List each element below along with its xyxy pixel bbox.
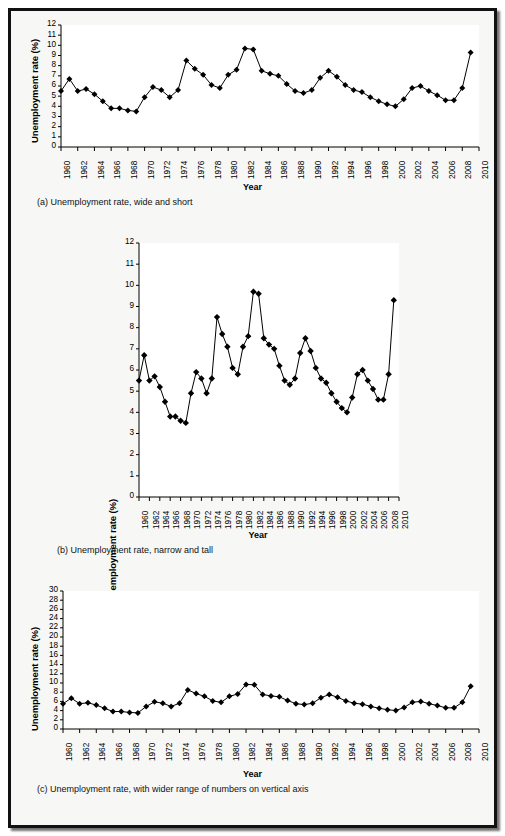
x-tick-label: 2010: [482, 161, 490, 179]
chart-panel-a: Unemployment rate (%) 121110987654321019…: [11, 11, 494, 211]
x-tick-label: 1960: [64, 161, 72, 179]
y-tick-label: 8: [35, 61, 56, 69]
x-tick-label: 2004: [432, 161, 440, 179]
x-tick-label: 1992: [332, 743, 340, 761]
panel-c-caption: (c) Unemployment rate, with wider range …: [37, 784, 309, 794]
x-tick-label: 1978: [236, 511, 244, 529]
y-tick-label: 26: [35, 605, 58, 613]
y-tick-label: 6: [113, 365, 134, 373]
x-tick-label: 1988: [298, 161, 306, 179]
x-tick-label: 1982: [248, 161, 256, 179]
y-tick-label: 18: [35, 642, 58, 650]
x-tick-label: 1980: [233, 743, 241, 761]
y-tick-label: 2: [35, 715, 58, 723]
x-tick-label: 1992: [332, 161, 340, 179]
plot-background: [61, 25, 479, 147]
x-tick-label: 1984: [266, 743, 274, 761]
x-tick-label: 1960: [66, 743, 74, 761]
panel-a-x-axis-label: Year: [11, 182, 494, 192]
x-tick-label: 1990: [316, 743, 324, 761]
x-tick-label: 1984: [265, 161, 273, 179]
y-tick-label: 9: [35, 51, 56, 59]
x-tick-label: 1970: [149, 743, 157, 761]
panel-a-plot-area: 1211109876543210196019621964196619681970…: [35, 19, 485, 199]
x-tick-label: 2004: [371, 511, 379, 529]
x-tick-label: 1962: [81, 161, 89, 179]
x-tick-label: 2000: [399, 161, 407, 179]
chart-panel-b: Unemployment rate (%) 121110987654321019…: [11, 233, 494, 558]
y-tick-label: 0: [35, 724, 58, 732]
y-tick-label: 24: [35, 614, 58, 622]
x-tick-label: 1978: [215, 161, 223, 179]
x-tick-label: 1990: [298, 511, 306, 529]
y-tick-label: 10: [35, 41, 56, 49]
x-tick-label: 1988: [288, 511, 296, 529]
x-tick-label: 2006: [449, 161, 457, 179]
y-tick-label: 20: [35, 632, 58, 640]
y-tick-label: 16: [35, 651, 58, 659]
y-tick-label: 3: [113, 429, 134, 437]
y-tick-label: 6: [35, 697, 58, 705]
x-tick-label: 1968: [184, 511, 192, 529]
x-tick-label: 1996: [366, 743, 374, 761]
y-tick-label: 0: [113, 492, 134, 500]
y-tick-label: 1: [35, 132, 56, 140]
y-tick-label: 22: [35, 623, 58, 631]
x-tick-label: 1964: [99, 743, 107, 761]
y-tick-label: 4: [113, 408, 134, 416]
x-tick-label: 1988: [299, 743, 307, 761]
x-tick-label: 1990: [315, 161, 323, 179]
x-tick-label: 1966: [116, 743, 124, 761]
y-tick-label: 5: [113, 387, 134, 395]
y-tick-label: 30: [35, 586, 58, 594]
x-tick-label: 2006: [381, 511, 389, 529]
x-tick-label: 2008: [392, 511, 400, 529]
x-tick-label: 2010: [402, 511, 410, 529]
y-tick-label: 9: [113, 302, 134, 310]
y-tick-label: 10: [113, 281, 134, 289]
y-tick-label: 7: [113, 344, 134, 352]
y-tick-label: 6: [35, 81, 56, 89]
x-tick-label: 1974: [183, 743, 191, 761]
x-tick-label: 1984: [267, 511, 275, 529]
y-tick-label: 12: [35, 669, 58, 677]
x-tick-label: 2002: [361, 511, 369, 529]
y-tick-label: 7: [35, 71, 56, 79]
y-tick-label: 2: [35, 122, 56, 130]
x-tick-label: 1976: [198, 161, 206, 179]
x-tick-label: 1974: [181, 161, 189, 179]
y-tick-label: 2: [113, 450, 134, 458]
x-tick-label: 1962: [153, 511, 161, 529]
x-tick-label: 2010: [482, 743, 490, 761]
x-tick-label: 1968: [133, 743, 141, 761]
x-tick-label: 2006: [449, 743, 457, 761]
y-tick-label: 12: [113, 238, 134, 246]
x-tick-label: 1960: [142, 511, 150, 529]
x-tick-label: 1994: [319, 511, 327, 529]
x-tick-label: 1998: [382, 161, 390, 179]
page-border: Unemployment rate (%) 121110987654321019…: [8, 8, 497, 828]
x-tick-label: 1996: [329, 511, 337, 529]
y-tick-label: 5: [35, 92, 56, 100]
x-tick-label: 1972: [166, 743, 174, 761]
x-tick-label: 1972: [205, 511, 213, 529]
x-tick-label: 1986: [281, 161, 289, 179]
y-tick-label: 28: [35, 596, 58, 604]
x-tick-label: 1974: [215, 511, 223, 529]
panel-b-plot-area: 1211109876543210196019621964196619681970…: [113, 237, 403, 547]
x-tick-label: 1970: [194, 511, 202, 529]
y-tick-label: 11: [113, 260, 134, 268]
x-tick-label: 2004: [432, 743, 440, 761]
x-tick-label: 2008: [465, 743, 473, 761]
panel-c-plot-area: 3028262422201816141210864201960196219641…: [35, 585, 485, 785]
y-tick-label: 10: [35, 678, 58, 686]
x-tick-label: 1968: [131, 161, 139, 179]
x-tick-label: 2008: [465, 161, 473, 179]
figure-page: Unemployment rate (%) 121110987654321019…: [0, 0, 505, 836]
y-tick-label: 14: [35, 660, 58, 668]
x-tick-label: 2000: [399, 743, 407, 761]
x-tick-label: 1976: [225, 511, 233, 529]
x-tick-label: 1982: [249, 743, 257, 761]
x-tick-label: 2000: [350, 511, 358, 529]
y-tick-label: 1: [113, 471, 134, 479]
